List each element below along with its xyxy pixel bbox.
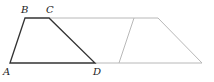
trapezoid-diagram: B C A D [0,0,214,82]
label-b: B [20,4,28,15]
translated-side-ab [119,18,134,63]
trapezoid-abcd [10,18,95,63]
label-c: C [46,4,54,15]
translated-side-cd [158,18,202,63]
label-a: A [2,66,10,77]
label-d: D [92,66,101,77]
